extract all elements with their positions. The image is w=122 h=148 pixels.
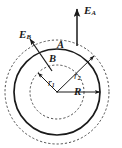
point-label-B: B bbox=[49, 54, 56, 65]
center-point bbox=[56, 91, 58, 93]
point-label-A: A bbox=[57, 40, 64, 51]
field-label-EA: EA bbox=[84, 5, 96, 17]
figure-canvas bbox=[0, 0, 122, 148]
radius-label-r2: r2 bbox=[74, 72, 81, 82]
field-label-EB-subscript: B bbox=[26, 33, 31, 40]
radius-label-r2-subscript: 2 bbox=[78, 75, 81, 81]
field-label-EA-subscript: A bbox=[91, 9, 96, 16]
field-label-EB: EB bbox=[19, 29, 31, 41]
radius-label-r1: r1 bbox=[48, 79, 55, 89]
radius-label-r1-subscript: 1 bbox=[52, 82, 55, 88]
physics-figure: EA EB A B r1 r2 R bbox=[0, 0, 122, 148]
radius-label-R: R bbox=[74, 86, 81, 97]
